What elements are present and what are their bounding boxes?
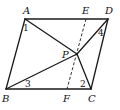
angle-2-label: 2: [80, 79, 86, 89]
angle-1-label: 1: [23, 23, 29, 33]
label-a: A: [22, 5, 30, 16]
angle-4-label: 4: [98, 28, 104, 38]
angle-3-label: 3: [25, 79, 31, 89]
label-f: F: [62, 93, 71, 104]
label-c: C: [88, 93, 96, 104]
label-e: E: [81, 5, 90, 16]
label-b: B: [1, 93, 9, 104]
label-d: D: [104, 5, 113, 16]
segment-ap: [25, 19, 77, 54]
label-p: P: [61, 49, 69, 60]
geometry-diagram: A E D P B F C 1 4 3 2: [0, 0, 120, 110]
